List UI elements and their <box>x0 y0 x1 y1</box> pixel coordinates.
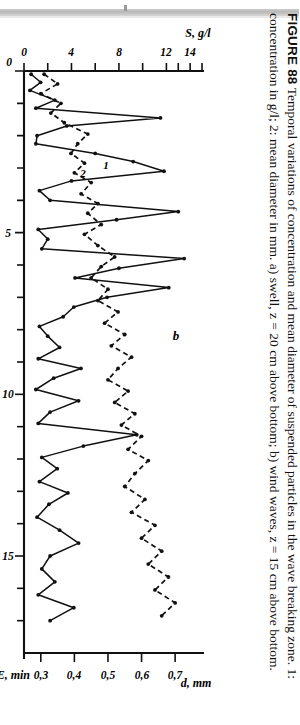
tick-label: 12 <box>160 46 172 58</box>
figure-caption-text: Temporal variations of concentration and… <box>267 13 299 679</box>
tick-label: 0 <box>21 46 27 58</box>
y-axis-label: S, g/l <box>185 25 210 40</box>
chart-axes <box>24 71 204 659</box>
plot: S, g/l d, mm TIME, min b 1 2 0481214 0,3… <box>0 13 220 713</box>
tick-label: 0,6 <box>134 669 148 681</box>
figure-caption-area: FIGURE 88 Temporal variations of concent… <box>239 13 300 713</box>
panel-label-b: b <box>172 328 179 344</box>
series-1-annotation: 1 <box>103 158 109 170</box>
chart-ticks <box>15 63 202 662</box>
tick-label: 0,3 <box>33 669 47 681</box>
tick-label: 0,7 <box>167 669 181 681</box>
scanned-page: S, g/l d, mm TIME, min b 1 2 0481214 0,3… <box>0 0 299 725</box>
tick-label: 14 <box>184 46 196 58</box>
tick-label: 8 <box>116 46 122 58</box>
y2-axis-label: d, mm <box>180 675 211 690</box>
tick-label: 15 <box>2 550 14 562</box>
tick-label: 10 <box>2 388 14 400</box>
series-2-annotation: 2 <box>80 166 86 178</box>
chart-svg <box>0 13 220 713</box>
chart-series <box>28 72 186 622</box>
figure-number: FIGURE 88 <box>285 13 300 85</box>
tick-label: 0,5 <box>100 669 114 681</box>
tick-label: 0,4 <box>67 669 81 681</box>
tick-label: 0 <box>6 56 12 68</box>
figure-chart-area: S, g/l d, mm TIME, min b 1 2 0481214 0,3… <box>0 13 220 713</box>
tick-label: 4 <box>68 46 74 58</box>
rotated-figure-wrapper: S, g/l d, mm TIME, min b 1 2 0481214 0,3… <box>0 0 299 725</box>
x-axis-label: TIME, min <box>0 667 30 682</box>
figure-caption: FIGURE 88 Temporal variations of concent… <box>265 13 299 693</box>
tick-label: 5 <box>5 226 11 238</box>
